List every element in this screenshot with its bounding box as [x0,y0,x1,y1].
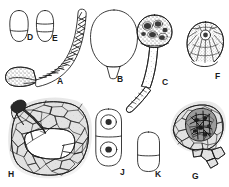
panel-label-k: K [155,170,161,179]
panel-k-spore [138,132,160,172]
panel-j-binucleate-spore [96,109,122,166]
panel-label-e: E [52,34,58,43]
panel-d-spore [10,11,28,42]
panel-b-vesicle [91,10,138,79]
panel-label-b: B [117,75,123,84]
panel-label-c: C [162,78,168,87]
panel-label-a: A [57,77,63,86]
panel-f-pycnidium [187,22,224,67]
panel-label-f: F [215,72,220,81]
panel-label-j: J [120,168,125,177]
illustration-plate: D E A B C F H J K G [0,0,229,187]
panel-label-h: H [8,170,14,179]
panel-h-tissue-section [8,98,92,179]
panel-label-d: D [27,33,33,42]
hyphal-fragment [126,87,150,112]
panel-label-g: G [192,172,199,181]
plate-drawing [0,0,229,187]
panel-g-infected-tissue [170,101,226,168]
